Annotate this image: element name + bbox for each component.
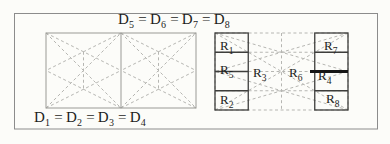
region-label-r4: R4 xyxy=(318,69,331,83)
equation-bottom: D1=D2=D3=D4 xyxy=(34,109,146,126)
region-label-r2: R2 xyxy=(220,93,233,107)
region-label-r8: R8 xyxy=(326,92,339,106)
diagram-canvas: D5=D6=D7=D8 D1=D2=D3=D4 R1 R5 R2 R3 R6 R… xyxy=(0,0,390,144)
region-label-r7: R7 xyxy=(324,39,337,53)
region-label-r6: R6 xyxy=(289,66,302,80)
eq-term: D xyxy=(34,109,45,125)
region-label-r1: R1 xyxy=(220,39,233,53)
region-label-r3: R3 xyxy=(253,66,266,80)
equation-top: D5=D6=D7=D8 xyxy=(118,11,230,28)
eq-term: D xyxy=(118,11,129,27)
region-label-r5: R5 xyxy=(220,63,233,77)
